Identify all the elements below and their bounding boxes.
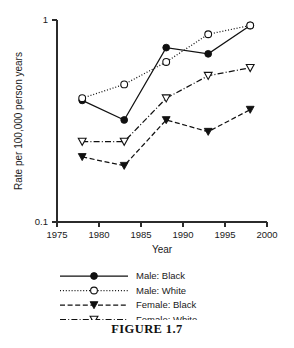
legend-item: Male: Black <box>60 270 185 281</box>
line-chart: 10.1 197519801985199019952000 Year Rate … <box>0 0 294 320</box>
series-male-black <box>79 22 254 123</box>
data-point-marker <box>121 81 128 88</box>
y-tick-label: 1 <box>43 14 48 25</box>
data-point-marker <box>246 64 254 71</box>
x-axis-ticks: 197519801985199019952000 <box>46 222 277 240</box>
x-tick-label: 1995 <box>214 229 235 240</box>
x-axis-title: Year <box>152 244 173 255</box>
series-female-black <box>78 106 254 169</box>
data-point-marker <box>204 72 212 79</box>
data-point-marker <box>120 162 128 169</box>
legend-item: Male: White <box>60 285 186 296</box>
legend-label: Male: Black <box>136 270 185 281</box>
data-point-marker <box>162 95 170 102</box>
data-point-marker <box>91 287 98 294</box>
series-male-white <box>79 22 254 102</box>
data-point-marker <box>121 117 128 124</box>
figure-caption: FIGURE 1.7 <box>0 322 294 337</box>
figure-container: 10.1 197519801985199019952000 Year Rate … <box>0 0 294 348</box>
data-point-marker <box>205 31 212 38</box>
data-point-marker <box>163 44 170 51</box>
data-point-marker <box>247 22 254 29</box>
legend-label: Female: White <box>136 314 197 320</box>
y-axis-ticks: 10.1 <box>35 14 57 227</box>
x-tick-label: 2000 <box>256 229 277 240</box>
series-line <box>82 68 250 142</box>
x-tick-label: 1980 <box>88 229 109 240</box>
data-point-marker <box>205 50 212 57</box>
data-point-marker <box>246 106 254 113</box>
y-axis-title: Rate per 100,000 person years <box>13 52 24 190</box>
series-female-white <box>78 64 254 145</box>
chart-legend: Male: BlackMale: WhiteFemale: BlackFemal… <box>60 270 197 320</box>
data-point-marker <box>204 128 212 135</box>
legend-label: Female: Black <box>136 299 196 310</box>
x-tick-label: 1990 <box>172 229 193 240</box>
x-tick-label: 1985 <box>130 229 151 240</box>
data-point-marker <box>79 95 86 102</box>
data-point-marker <box>91 273 98 280</box>
legend-item: Female: Black <box>60 299 196 310</box>
data-point-marker <box>163 59 170 66</box>
legend-label: Male: White <box>136 285 186 296</box>
chart-series-group <box>78 22 254 169</box>
x-tick-label: 1975 <box>46 229 67 240</box>
y-tick-label: 0.1 <box>35 216 48 227</box>
series-line <box>82 25 250 120</box>
chart-axes <box>57 20 267 222</box>
legend-item: Female: White <box>60 314 197 320</box>
